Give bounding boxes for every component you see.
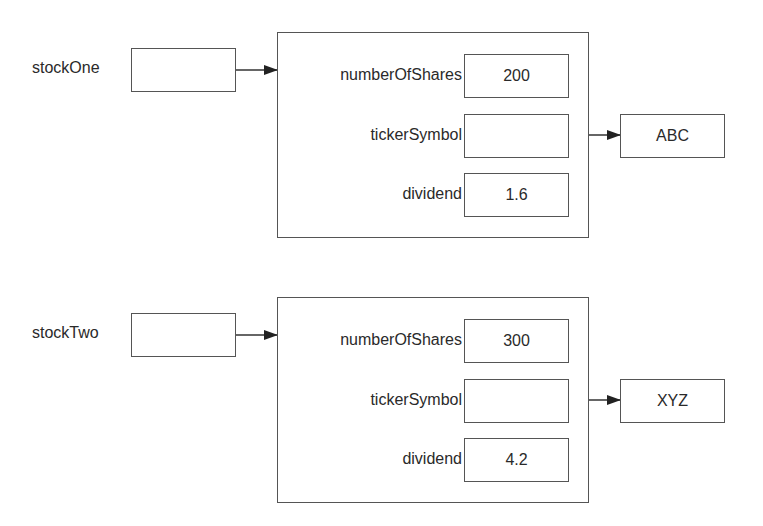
- stock-object: numberOfShares 200 tickerSymbol dividend…: [277, 32, 589, 238]
- field-value-box: 200: [464, 54, 569, 98]
- reference-box: [131, 48, 236, 92]
- field-label: tickerSymbol: [262, 390, 462, 410]
- field-label: numberOfShares: [262, 65, 462, 85]
- ticker-string-box: ABC: [620, 114, 725, 158]
- field-reference-box: [464, 114, 569, 158]
- field-value-box: 4.2: [464, 438, 569, 482]
- field-reference-box: [464, 379, 569, 423]
- ticker-string-box: XYZ: [620, 379, 725, 423]
- variable-label: stockOne: [32, 58, 127, 78]
- field-label: dividend: [262, 184, 462, 204]
- field-label: dividend: [262, 449, 462, 469]
- reference-box: [131, 313, 236, 357]
- variable-label: stockTwo: [32, 323, 127, 343]
- field-value-box: 300: [464, 319, 569, 363]
- field-label: numberOfShares: [262, 330, 462, 350]
- field-value-box: 1.6: [464, 173, 569, 217]
- field-label: tickerSymbol: [262, 125, 462, 145]
- stock-one-group: stockOne numberOfShares 200 tickerSymbol…: [0, 0, 763, 260]
- stock-object: numberOfShares 300 tickerSymbol dividend…: [277, 297, 589, 503]
- stock-two-group: stockTwo numberOfShares 300 tickerSymbol…: [0, 265, 763, 525]
